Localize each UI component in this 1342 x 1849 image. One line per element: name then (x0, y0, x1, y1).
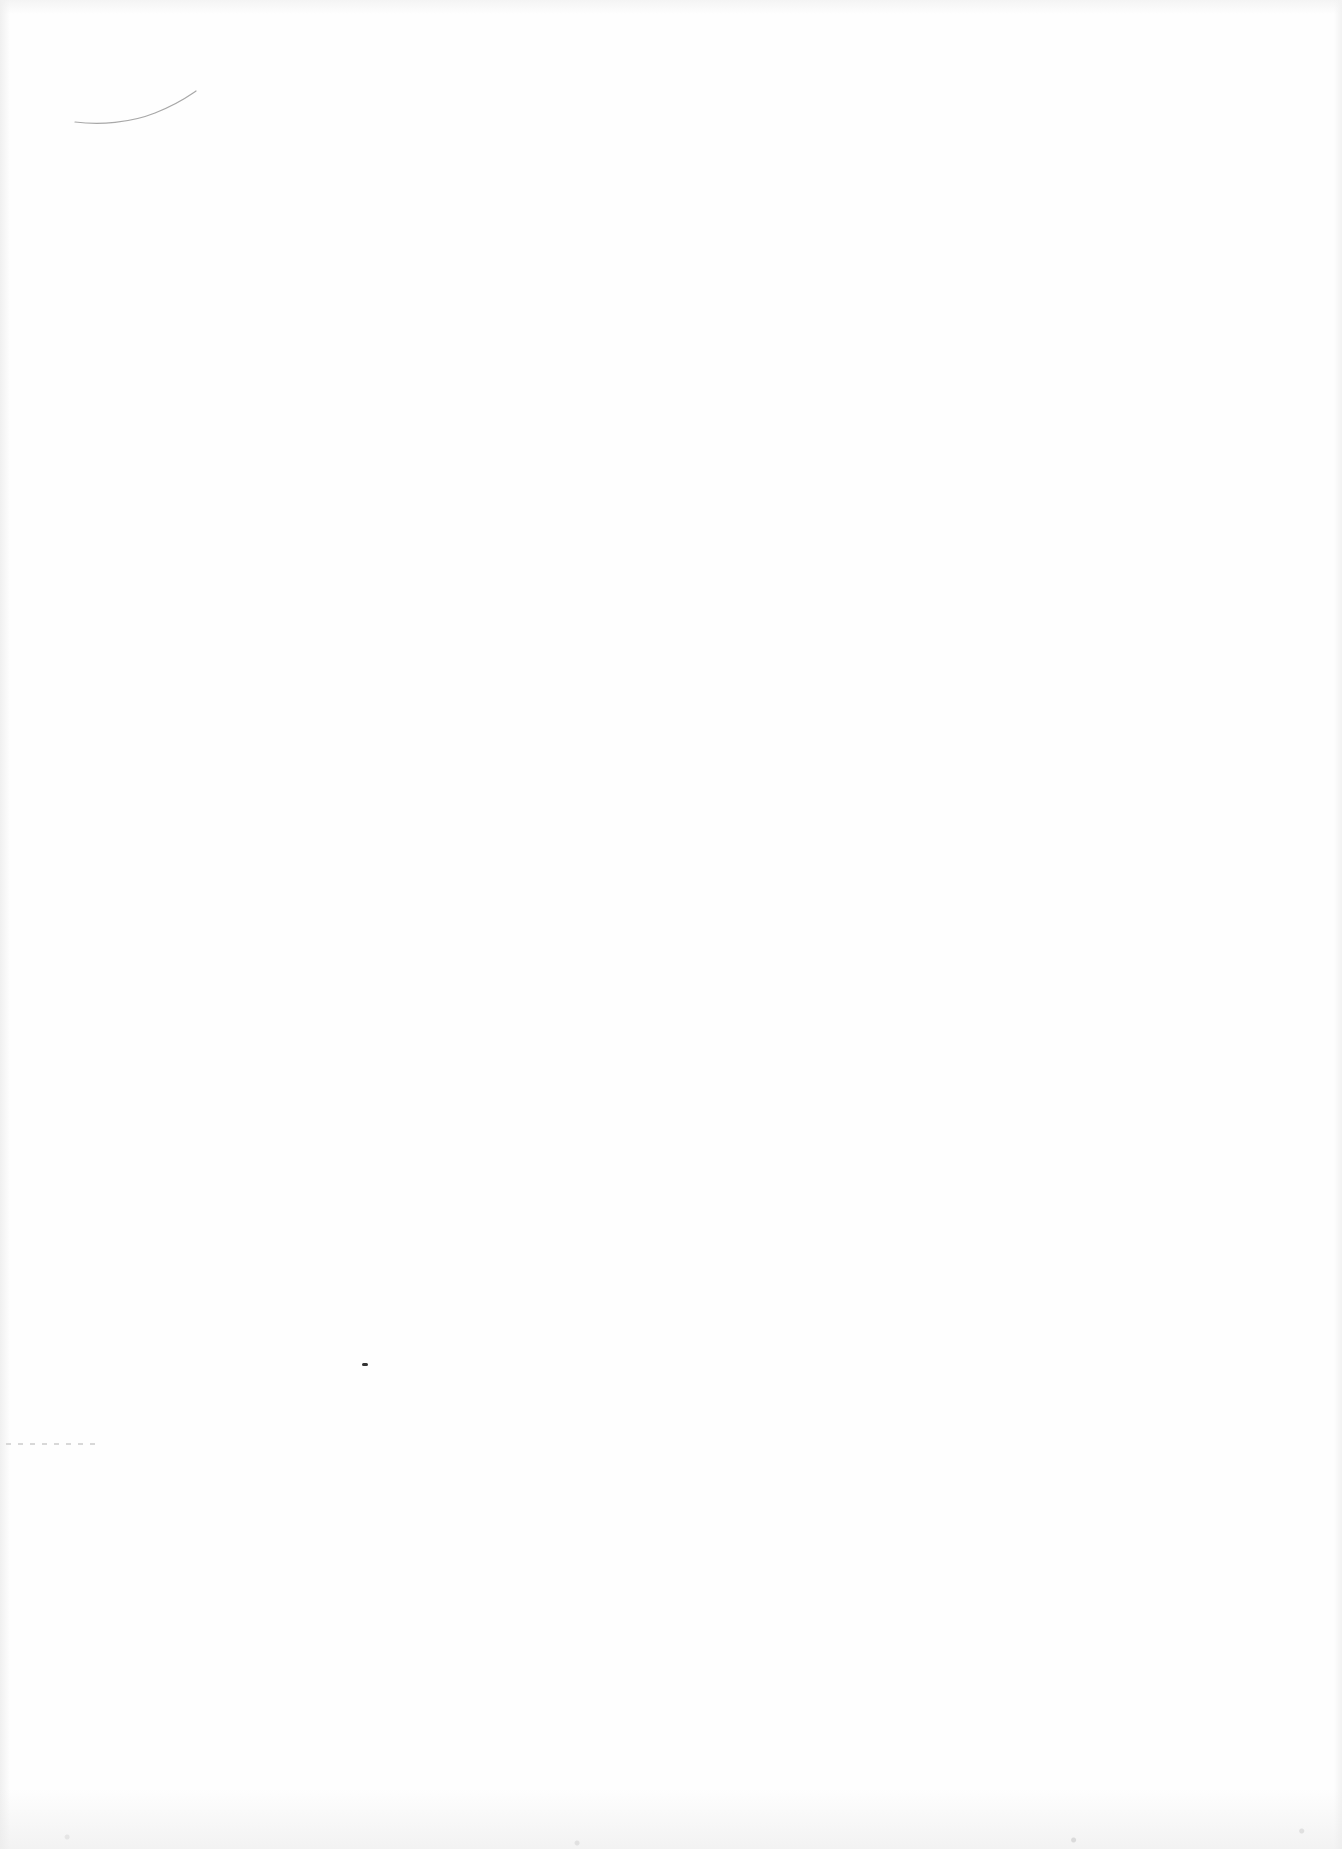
faint-scan-dashes (6, 1443, 101, 1445)
dust-speck (362, 1363, 368, 1366)
pencil-stroke-mark (70, 85, 200, 130)
scan-edge-left (0, 0, 10, 1849)
scan-edge-top (0, 0, 1342, 14)
blank-page (0, 0, 1342, 1849)
scan-edge-right (1334, 0, 1342, 1849)
scan-edge-bottom-noise (0, 1789, 1342, 1849)
